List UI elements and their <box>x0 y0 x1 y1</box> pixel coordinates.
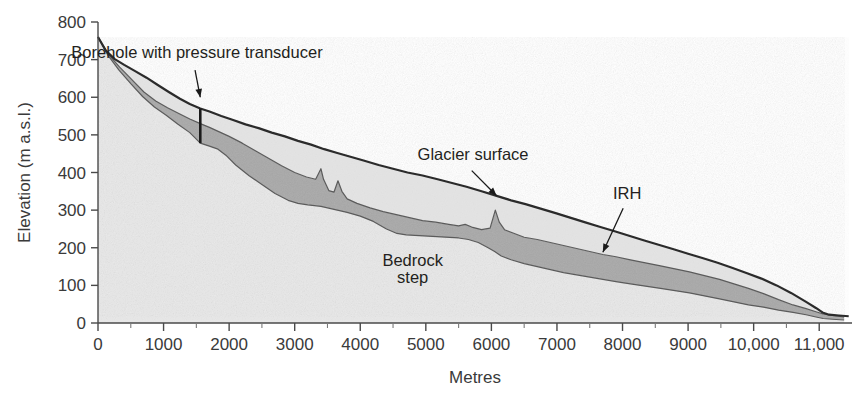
x-tick-label: 4000 <box>341 335 379 354</box>
x-tick-label: 0 <box>93 335 102 354</box>
y-tick-label: 100 <box>58 276 86 295</box>
annotation-bedrock-step-line2: step <box>397 268 428 286</box>
x-tick-label: 6000 <box>472 335 510 354</box>
x-tick-label: 5000 <box>407 335 445 354</box>
y-axis-title: Elevation (m a.s.l.) <box>15 102 34 243</box>
y-tick-label: 400 <box>58 164 86 183</box>
annotation-glacier-surface-label: Glacier surface <box>418 145 529 163</box>
x-tick-label: 2000 <box>210 335 248 354</box>
x-tick-label: 1000 <box>145 335 183 354</box>
y-tick-label: 500 <box>58 126 86 145</box>
x-tick-label: 8000 <box>604 335 642 354</box>
annotation-borehole-label: Borehole with pressure transducer <box>71 43 323 61</box>
x-tick-label: 7000 <box>538 335 576 354</box>
y-tick-label: 600 <box>58 88 86 107</box>
y-tick-label: 300 <box>58 201 86 220</box>
x-tick-label: 9000 <box>669 335 707 354</box>
annotation-bedrock-step-line1: Bedrock <box>382 251 443 269</box>
y-tick-label: 0 <box>77 314 86 333</box>
borehole-arrowhead <box>195 88 202 97</box>
x-tick-label: 10,000 <box>728 335 780 354</box>
y-tick-label: 800 <box>58 13 86 32</box>
x-tick-label: 3000 <box>276 335 314 354</box>
annotation-irh-label: IRH <box>613 184 641 202</box>
x-axis-title: Metres <box>449 368 501 387</box>
glacier-profile-chart: 0100200300400500600700800010002000300040… <box>0 0 867 418</box>
y-tick-label: 200 <box>58 239 86 258</box>
x-tick-label: 11,000 <box>794 335 845 354</box>
glacier-profile-figure: 0100200300400500600700800010002000300040… <box>0 0 867 418</box>
